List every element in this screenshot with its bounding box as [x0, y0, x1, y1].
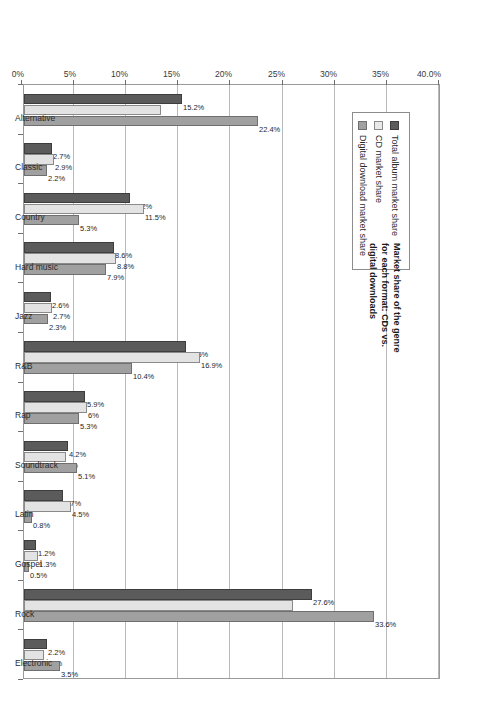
value-axis-tick — [230, 80, 231, 85]
bar-value-label: 8.6% — [115, 251, 132, 260]
category-axis-label: R&B — [15, 361, 32, 371]
bar — [24, 413, 79, 424]
bar-value-label: 2.7% — [53, 312, 70, 321]
bar-value-label: 0.8% — [33, 521, 50, 530]
bar-value-label: 2.3% — [49, 323, 66, 332]
bar-value-label: 4.5% — [72, 510, 89, 519]
bar — [24, 352, 200, 363]
legend-entry: Total album market share — [390, 121, 400, 236]
bar-value-label: 22.4% — [259, 125, 280, 134]
bar-value-label: 33.6% — [375, 620, 396, 629]
bar — [24, 639, 47, 650]
bar-value-label: 2.2% — [48, 174, 65, 183]
bar-value-label: 16.9% — [201, 361, 222, 370]
legend-label: Digital download market share — [358, 135, 368, 256]
bar — [24, 363, 132, 374]
bar-value-label: 5.3% — [80, 224, 97, 233]
bar-value-label: 10.4% — [133, 372, 154, 381]
value-axis-tick — [125, 80, 126, 85]
category-axis-label: Latin — [15, 509, 33, 519]
category-axis-label: Alternative — [15, 113, 55, 123]
category-axis-label: Classic — [15, 162, 42, 172]
value-axis-label: 0% — [0, 69, 24, 79]
value-axis-tick — [177, 80, 178, 85]
bar-value-label: 5.3% — [80, 422, 97, 431]
bar — [24, 94, 182, 105]
value-axis-tick — [334, 80, 335, 85]
bar — [24, 589, 312, 600]
category-axis-tick — [18, 530, 23, 531]
bar-value-label: 27.6% — [313, 598, 334, 607]
category-axis-tick — [18, 580, 23, 581]
category-axis-tick — [18, 183, 23, 184]
value-axis-label: 20% — [193, 69, 233, 79]
category-axis-tick — [18, 382, 23, 383]
category-axis-tick — [18, 84, 23, 85]
bar-value-label: 7.9% — [107, 273, 124, 282]
value-axis-tick — [282, 80, 283, 85]
chart-annotation: Market share of the genrefor each format… — [367, 243, 403, 353]
plot-area: 15.2%13.1%22.4%2.7%2.9%2.2%10.2%11.5%5.3… — [23, 84, 440, 679]
category-axis-tick — [18, 431, 23, 432]
legend-label: CD market share — [374, 135, 384, 203]
category-axis-label: Soundtrack — [15, 460, 58, 470]
bar-value-label: 4.2% — [69, 450, 86, 459]
value-axis-label: 30% — [297, 69, 337, 79]
bar-value-label: 5.1% — [78, 472, 95, 481]
category-axis-tick — [18, 332, 23, 333]
legend-entry: Digital download market share — [358, 121, 368, 256]
bar-value-label: 2.6% — [52, 301, 69, 310]
annotation-line: Market share of the genre — [391, 243, 403, 353]
bar — [24, 540, 37, 551]
bar-value-label: 2.9% — [55, 163, 72, 172]
bar-value-label: 3.5% — [62, 670, 79, 679]
annotation-line: for each format: CDs vs. — [379, 243, 391, 353]
value-axis-label: 40.0% — [401, 69, 441, 79]
category-axis-label: Electronic — [15, 658, 52, 668]
legend-swatch — [391, 121, 400, 130]
gridline — [438, 85, 439, 678]
bar-value-label: 1.2% — [38, 549, 55, 558]
bar — [24, 242, 114, 253]
legend-swatch — [359, 121, 368, 130]
value-axis-label: 35% — [349, 69, 389, 79]
category-axis-label: Hard music — [15, 262, 58, 272]
gridline — [334, 85, 335, 678]
category-axis-tick — [18, 134, 23, 135]
value-axis-tick — [386, 80, 387, 85]
legend-swatch — [375, 121, 384, 130]
value-axis-tick — [73, 80, 74, 85]
bar — [24, 143, 52, 154]
category-axis-tick — [18, 629, 23, 630]
bar-value-label: 2.2% — [48, 648, 65, 657]
category-axis-label: Rock — [15, 609, 34, 619]
category-axis-tick — [18, 233, 23, 234]
legend-entry: CD market share — [374, 121, 384, 203]
bar-value-label: 15.2% — [183, 103, 204, 112]
value-axis-label: 10% — [88, 69, 128, 79]
category-axis-label: Gospel — [15, 559, 42, 569]
category-axis-tick — [18, 679, 23, 680]
bar — [24, 490, 63, 501]
bar-value-label: 0.5% — [30, 571, 47, 580]
bar — [24, 116, 258, 127]
category-axis: AlternativeClassicCountryHard musicJazzR… — [3, 84, 23, 679]
category-axis-label: Country — [15, 212, 45, 222]
category-axis-tick — [18, 282, 23, 283]
bar — [24, 402, 87, 413]
bar — [24, 600, 293, 611]
value-axis-label: 5% — [36, 69, 76, 79]
bar — [24, 441, 68, 452]
bar-value-label: 6% — [88, 411, 99, 420]
value-axis-label: 15% — [140, 69, 180, 79]
category-axis-label: Rap — [15, 410, 31, 420]
bar — [24, 292, 51, 303]
value-axis-tick — [438, 80, 439, 85]
bar-value-label: 2.7% — [53, 152, 70, 161]
annotation-line: digital downloads — [367, 243, 379, 353]
chart-figure: 15.2%13.1%22.4%2.7%2.9%2.2%10.2%11.5%5.3… — [0, 0, 481, 720]
category-axis-tick — [18, 481, 23, 482]
bar — [24, 391, 86, 402]
bar-value-label: 8.8% — [117, 262, 134, 271]
bar-value-label: 5.9% — [87, 400, 104, 409]
